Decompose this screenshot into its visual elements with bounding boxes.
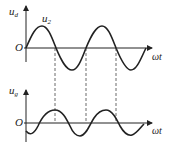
upper-y-axis-label: ud: [9, 6, 18, 19]
u2-curve-label: u2: [42, 13, 51, 26]
upper-x-axis-label: ωt: [152, 52, 162, 62]
lower-x-axis-label: ωt: [152, 126, 162, 136]
waveform-graphics: [0, 0, 174, 151]
lower-y-axis-label: ug: [9, 85, 18, 98]
dashed-guides: [55, 48, 116, 123]
upper-origin-label: O: [15, 42, 23, 53]
waveform-diagram: ud u2 O ωt ug O ωt: [0, 0, 174, 151]
lower-origin-label: O: [15, 117, 23, 128]
